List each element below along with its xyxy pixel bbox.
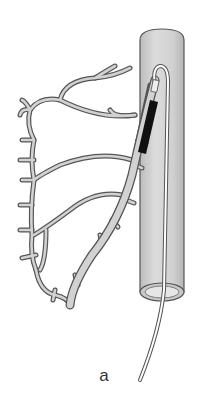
- diagram-svg: [0, 0, 208, 414]
- panel-label: a: [0, 366, 208, 386]
- medical-illustration: a: [0, 0, 208, 414]
- aorta-cylinder: [140, 29, 184, 301]
- coronary-artery-tree: [20, 66, 155, 305]
